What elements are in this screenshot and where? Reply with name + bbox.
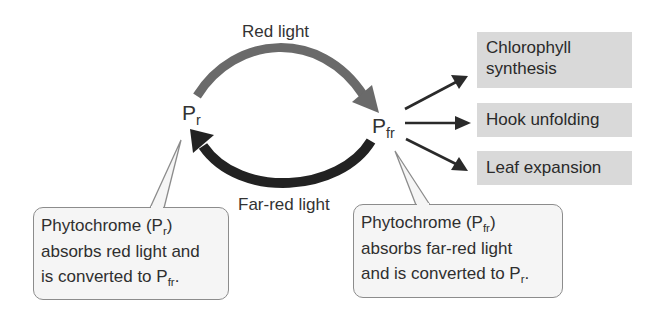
red-light-arrow — [197, 48, 379, 113]
left-pointer-joint — [151, 206, 163, 209]
text: . — [175, 267, 180, 286]
pfr-base: P — [372, 114, 386, 137]
text: Phytochrome (P — [361, 213, 483, 232]
left-callout-line3: is converted to Pfr. — [41, 264, 220, 290]
right-callout-line1: Phytochrome (Pfr) — [361, 210, 554, 236]
right-callout-line3: and is converted to Pr. — [361, 261, 554, 287]
red-light-label: Red light — [242, 22, 309, 42]
right-callout-pointer — [395, 151, 430, 205]
subscript: fr — [168, 276, 175, 288]
effect-text: Hook unfolding — [486, 109, 624, 130]
far-red-light-arrow — [190, 129, 371, 183]
left-callout-line2: absorbs red light and — [41, 239, 220, 265]
subscript: fr — [483, 222, 490, 234]
right-pointer-joint — [417, 203, 429, 206]
left-callout-line1: Phytochrome (Pr) — [41, 213, 220, 239]
text: Phytochrome (P — [41, 216, 163, 235]
pr-base: P — [182, 101, 196, 124]
effect-text-line1: Chlorophyll — [486, 37, 624, 58]
effect-text-line2: synthesis — [486, 58, 624, 79]
effect-arrow-chlorophyll — [405, 75, 468, 109]
pfr-subscript: fr — [386, 125, 395, 141]
effect-arrow-leaf — [406, 139, 468, 171]
left-callout: Phytochrome (Pr) absorbs red light and i… — [33, 207, 229, 300]
effect-box-hook-unfolding: Hook unfolding — [477, 103, 632, 137]
left-callout-pointer — [150, 140, 181, 208]
right-callout: Phytochrome (Pfr) absorbs far-red light … — [353, 204, 563, 298]
text: is converted to P — [41, 267, 168, 286]
text: ) — [167, 216, 173, 235]
effect-box-leaf-expansion: Leaf expansion — [477, 151, 632, 185]
effect-text: Leaf expansion — [486, 157, 624, 178]
effect-box-chlorophyll-synthesis: Chlorophyll synthesis — [477, 32, 632, 88]
pr-node: Pr — [182, 102, 201, 124]
text: . — [525, 264, 530, 283]
text: ) — [490, 213, 496, 232]
pfr-node: Pfr — [372, 115, 395, 137]
text: and is converted to P — [361, 264, 521, 283]
far-red-light-label: Far-red light — [238, 195, 330, 215]
right-callout-line2: absorbs far-red light — [361, 236, 554, 262]
effect-arrow-hook — [405, 116, 471, 130]
pr-subscript: r — [196, 112, 201, 128]
